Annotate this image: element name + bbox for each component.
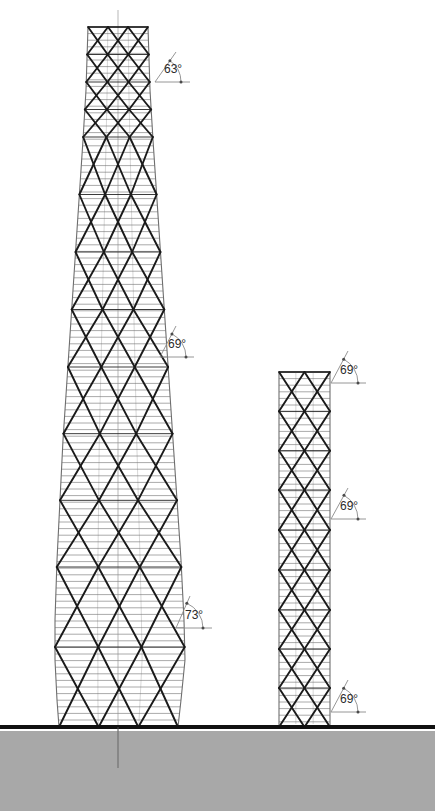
angle-endpoint-marker: [357, 382, 360, 385]
angle-endpoint-marker: [342, 494, 345, 497]
angle-endpoint-marker: [185, 602, 188, 605]
elevation-canvas: 63°69°73°69°69°69°: [0, 0, 435, 811]
angle-label: 63°: [164, 62, 182, 76]
angle-endpoint-marker: [202, 627, 205, 630]
angle-label: 73°: [185, 608, 203, 622]
angle-label: 69°: [340, 692, 358, 706]
angle-endpoint-marker: [185, 356, 188, 359]
angle-label: 69°: [340, 499, 358, 513]
angle-label: 69°: [168, 337, 186, 351]
angle-endpoint-marker: [357, 711, 360, 714]
ground-line: [0, 725, 435, 729]
angle-endpoint-marker: [180, 81, 183, 84]
angle-label: 69°: [340, 363, 358, 377]
angle-endpoint-marker: [342, 687, 345, 690]
angle-endpoint-marker: [170, 332, 173, 335]
ground-fill: [0, 731, 435, 811]
angle-endpoint-marker: [357, 518, 360, 521]
elevation-drawing: 63°69°73°69°69°69°: [0, 0, 435, 811]
ground-plane: [0, 725, 435, 811]
angle-endpoint-marker: [342, 358, 345, 361]
